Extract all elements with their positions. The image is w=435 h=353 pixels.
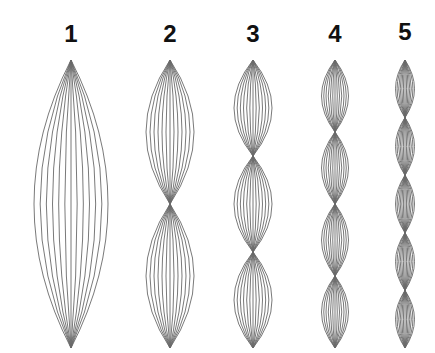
mode-waves (34, 60, 415, 348)
string-curve (335, 132, 346, 204)
string-curve (237, 60, 253, 156)
string-curve (71, 60, 77, 348)
standing-wave-diagram: 12345 (0, 0, 435, 353)
mode-wave-4 (322, 60, 349, 348)
string-curve (253, 252, 256, 348)
string-curve (237, 156, 253, 252)
string-curve (324, 132, 335, 204)
string-curve (253, 156, 256, 252)
string-curve (253, 60, 256, 156)
string-curve (250, 60, 253, 156)
mode-wave-1 (34, 60, 108, 348)
string-curve (40, 60, 71, 348)
string-curve (335, 276, 346, 348)
string-curve (170, 60, 190, 204)
mode-wave-5 (396, 60, 415, 348)
string-curve (170, 60, 174, 204)
string-curve (170, 204, 174, 348)
mode-labels: 12345 (64, 18, 411, 47)
string-curve (150, 60, 170, 204)
string-curve (335, 204, 346, 276)
mode-label-1: 1 (64, 20, 77, 47)
string-curve (253, 252, 269, 348)
string-curve (65, 60, 71, 348)
mode-label-4: 4 (328, 20, 342, 47)
string-curve (335, 60, 346, 132)
string-curve (71, 60, 102, 348)
string-curve (250, 252, 253, 348)
string-curve (170, 204, 190, 348)
mode-wave-2 (146, 60, 194, 348)
mode-label-5: 5 (398, 18, 411, 45)
string-curve (250, 156, 253, 252)
string-curve (166, 204, 170, 348)
string-curve (166, 60, 170, 204)
mode-label-3: 3 (246, 20, 259, 47)
string-curve (253, 156, 269, 252)
mode-wave-3 (234, 60, 272, 348)
string-curve (324, 60, 335, 132)
string-curve (324, 204, 335, 276)
string-curve (237, 252, 253, 348)
string-curve (324, 276, 335, 348)
mode-label-2: 2 (163, 20, 176, 47)
string-curve (150, 204, 170, 348)
string-curve (253, 60, 269, 156)
